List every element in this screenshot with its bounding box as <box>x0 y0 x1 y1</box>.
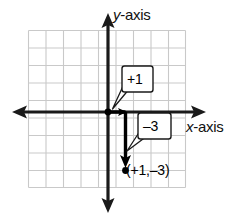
plotted-point-coordinate-label: (+1,–3) <box>126 162 169 178</box>
y-axis-label-suffix: -axis <box>120 6 150 23</box>
callout-x-step-text: +1 <box>127 71 143 87</box>
callout-y-step-text: –3 <box>143 118 158 134</box>
coordinate-plane-figure: y-axis x-axis +1 –3 (+1,–3) <box>0 0 244 218</box>
y-axis-label: y-axis <box>113 6 150 23</box>
x-axis-label: x-axis <box>186 118 223 135</box>
x-axis-label-suffix: -axis <box>193 118 223 135</box>
coordinate-plane-svg <box>0 0 244 218</box>
origin-dot <box>105 109 112 116</box>
